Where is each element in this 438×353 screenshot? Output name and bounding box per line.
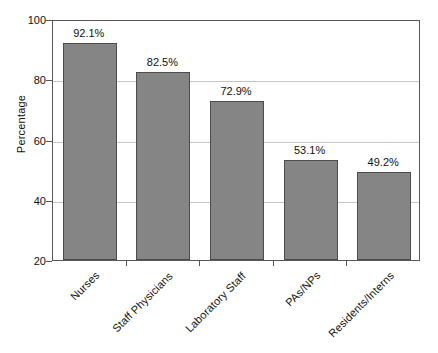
- y-tick-label: 100: [6, 14, 46, 26]
- x-axis-label: Laboratory Staff: [183, 269, 248, 334]
- y-tick-label: 80: [6, 74, 46, 86]
- x-axis-label: PAs/NPs: [283, 269, 323, 309]
- x-tick-mark: [126, 261, 127, 266]
- bar-chart: Percentage 20406080100 92.1%82.5%72.9%53…: [0, 0, 438, 353]
- x-tick-mark: [273, 261, 274, 266]
- y-tick-mark: [46, 261, 52, 262]
- x-tick-mark: [199, 261, 200, 266]
- data-label: 53.1%: [294, 144, 325, 156]
- x-tick-mark: [346, 261, 347, 266]
- data-label: 82.5%: [147, 56, 178, 68]
- bar: [357, 172, 411, 260]
- y-tick-label: 40: [6, 195, 46, 207]
- bar: [136, 72, 190, 260]
- y-tick-label: 20: [6, 255, 46, 267]
- bar: [63, 43, 117, 260]
- data-label: 92.1%: [73, 27, 104, 39]
- data-label: 49.2%: [368, 156, 399, 168]
- bar: [210, 101, 264, 260]
- y-axis-title: Percentage: [15, 79, 27, 169]
- x-axis-label: Staff Physicians: [110, 269, 175, 334]
- x-axis-label: Nurses: [68, 269, 102, 303]
- bar: [284, 160, 338, 260]
- y-tick-label: 60: [6, 135, 46, 147]
- plot-area: [52, 20, 420, 261]
- data-label: 72.9%: [220, 85, 251, 97]
- x-axis-label: Residents/Interns: [326, 269, 396, 339]
